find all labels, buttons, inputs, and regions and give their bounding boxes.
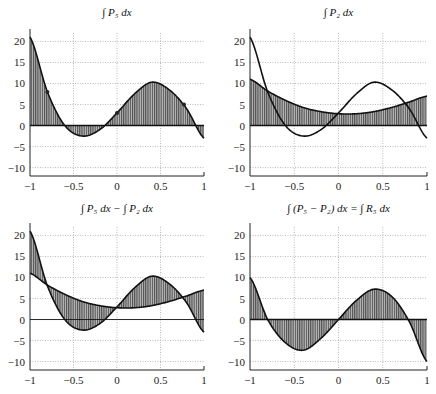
y-tick-label: 15 [234,56,246,68]
x-tick-label: 1 [201,180,207,192]
y-tick-label: 0 [20,314,26,326]
interpolation-point [115,111,119,115]
y-tick-label: 0 [240,314,246,326]
y-tick-label: 0 [20,120,26,132]
x-tick-label: 1 [424,374,430,386]
y-tick-label: 20 [14,229,26,241]
chart-panel-1: −10−505101520−1−0.500.51∫ P₅ dx [8,6,207,192]
y-tick-label: 5 [240,99,246,111]
x-tick-label: −1 [244,374,256,386]
x-tick-label: −0.5 [64,180,84,192]
x-tick-label: −0.5 [284,374,304,386]
x-tick-label: 0.5 [376,180,390,192]
y-tick-label: −5 [233,335,245,347]
y-tick-label: 10 [14,77,26,89]
y-tick-label: 10 [14,271,26,283]
y-tick-label: −10 [228,356,246,368]
y-tick-label: −10 [8,162,26,174]
x-tick-label: 0.5 [154,374,168,386]
y-tick-label: 5 [20,99,26,111]
interpolation-point [182,103,186,107]
y-tick-label: −5 [13,335,25,347]
chart-title: ∫ P₅ dx [101,6,132,19]
x-tick-label: 1 [201,374,207,386]
y-tick-label: −5 [233,141,245,153]
y-tick-label: 10 [234,271,246,283]
chart-title: ∫ P₂ dx [323,6,354,19]
x-tick-label: −1 [24,374,36,386]
chart-title: ∫ P₅ dx − ∫ P₂ dx [80,202,153,215]
y-tick-label: 20 [234,35,246,47]
y-tick-label: 15 [234,250,246,262]
x-tick-label: 0 [336,374,342,386]
chart-title: ∫ (P₅ − P₂) dx = ∫ R₅ dx [286,202,390,215]
chart-panel-4: −10−505101520−1−0.500.51∫ (P₅ − P₂) dx =… [228,202,430,386]
x-tick-label: −0.5 [64,374,84,386]
x-tick-label: 1 [424,180,430,192]
y-tick-label: 20 [14,35,26,47]
x-tick-label: −1 [24,180,36,192]
y-tick-label: 15 [14,250,26,262]
figure: −10−505101520−1−0.500.51∫ P₅ dx−10−50510… [0,0,436,394]
chart-panel-3: −10−505101520−1−0.500.51∫ P₅ dx − ∫ P₂ d… [8,202,207,386]
y-tick-label: 20 [234,229,246,241]
chart-panel-2: −10−505101520−1−0.500.51∫ P₂ dx [228,6,430,192]
y-tick-label: −5 [13,141,25,153]
x-tick-label: 0 [336,180,342,192]
interpolation-point [45,90,49,94]
x-tick-label: 0 [114,180,120,192]
y-tick-label: 5 [20,293,26,305]
x-tick-label: 0 [114,374,120,386]
y-tick-label: 15 [14,56,26,68]
y-tick-label: 10 [234,77,246,89]
y-tick-label: −10 [8,356,26,368]
x-tick-label: 0.5 [154,180,168,192]
x-tick-label: 0.5 [376,374,390,386]
x-tick-label: −0.5 [284,180,304,192]
y-tick-label: 0 [240,120,246,132]
x-tick-label: −1 [244,180,256,192]
y-tick-label: −10 [228,162,246,174]
y-tick-label: 5 [240,293,246,305]
